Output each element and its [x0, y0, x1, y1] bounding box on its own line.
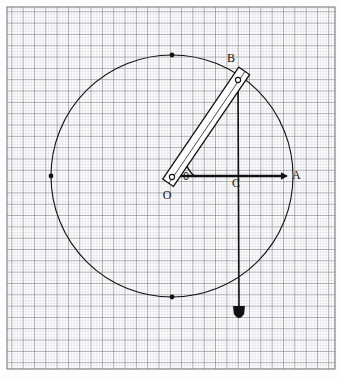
circle-marker-bottom: [170, 295, 175, 300]
label-theta: θ: [183, 171, 189, 182]
pin-joint-b: [235, 77, 240, 82]
label-c: C: [232, 176, 240, 190]
mechanism-diagram: O B C A θ: [0, 0, 342, 381]
label-o: O: [163, 188, 172, 202]
circle-marker-top: [170, 53, 175, 58]
pivot-joint-o: [169, 174, 174, 179]
label-a: A: [292, 168, 301, 182]
figure-canvas: O B C A θ: [0, 0, 342, 381]
label-b: B: [227, 51, 235, 65]
circle-marker-left: [49, 174, 54, 179]
